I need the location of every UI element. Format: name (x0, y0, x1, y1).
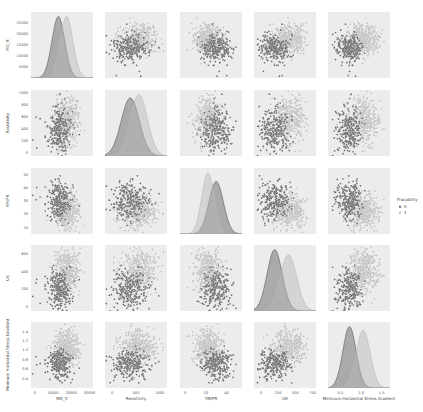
panel-2-1 (105, 168, 167, 239)
panel-4-3 (252, 322, 316, 388)
x-axis-label: YM/PR (204, 396, 218, 401)
panel-4-2 (180, 322, 242, 388)
y-tick-label: 200 (21, 139, 29, 143)
pairplot-figure: 500010000150002000025000MD_ft02004006008… (0, 0, 423, 412)
y-axis-label: MD_ft (5, 39, 10, 51)
y-tick-label: 40 (23, 186, 28, 190)
panel-1-1 (105, 90, 167, 156)
panel-3-1 (105, 245, 167, 318)
panel-2-2 (180, 168, 242, 234)
y-axis-label: Resistivity (5, 112, 10, 133)
x-tick-label: 0.5 (338, 391, 344, 395)
panel-0-0 (31, 12, 93, 78)
panel-1-3 (252, 88, 316, 162)
x-tick-label: 10000 (47, 391, 59, 395)
x-axis-label: Minimum Horizontal Stress Gradient (323, 396, 396, 401)
y-tick-label: 15000 (17, 43, 29, 47)
x-tick-label: 0 (33, 391, 36, 395)
panel-1-2 (180, 88, 242, 162)
y-axis-label: Minimum Horizontal Stress Gradient (5, 318, 10, 391)
panel-2-3 (252, 168, 316, 239)
panel-1-0 (31, 88, 93, 162)
y-axis-label: YM/PR (5, 195, 10, 209)
x-tick-label: 0 (260, 391, 263, 395)
x-axis-label: UK (282, 396, 288, 401)
x-tick-label: 1000 (155, 391, 165, 395)
y-tick-label: 400 (21, 127, 29, 131)
x-tick-label: 1.5 (379, 391, 385, 395)
legend-label-1: 1 (404, 210, 407, 215)
y-tick-label: 1.4 (22, 330, 28, 334)
panel-0-3 (252, 12, 316, 81)
y-tick-label: 0 (26, 151, 29, 155)
y-tick-label: 0 (26, 305, 29, 309)
legend-title: Fracability (397, 197, 418, 202)
y-tick-label: 1.0 (22, 348, 28, 352)
panel-4-4 (328, 322, 390, 388)
x-tick-label: 20000 (65, 391, 77, 395)
y-tick-label: 600 (21, 252, 29, 256)
y-tick-label: 1000 (19, 91, 29, 95)
panel-1-4 (328, 88, 390, 162)
y-tick-label: 5000 (19, 65, 29, 69)
y-axis-label: UK (5, 275, 10, 281)
x-tick-label: 20 (204, 391, 209, 395)
panel-0-1 (105, 12, 167, 81)
panel-3-2 (180, 245, 242, 318)
x-tick-label: 1.0 (358, 391, 364, 395)
y-tick-label: 0.8 (22, 358, 28, 362)
y-tick-label: 0.4 (22, 377, 28, 381)
y-tick-label: 30 (23, 199, 28, 203)
y-tick-label: 0.6 (22, 367, 28, 371)
panel-3-3 (254, 245, 316, 311)
legend: Fracability01 (397, 197, 418, 215)
x-tick-label: 500 (292, 391, 300, 395)
x-tick-label: 30000 (84, 391, 96, 395)
panel-4-0 (31, 322, 93, 388)
x-axis-label: Resistivity (126, 396, 147, 401)
x-tick-label: 0 (111, 391, 114, 395)
panel-0-4 (328, 12, 390, 81)
y-tick-label: 10 (23, 226, 28, 230)
panel-2-4 (328, 168, 390, 239)
legend-marker-0 (399, 206, 401, 208)
panel-2-0 (31, 168, 93, 239)
panel-4-1 (105, 322, 167, 388)
panel-3-4 (328, 245, 390, 318)
panel-0-2 (180, 12, 242, 81)
y-tick-label: 10000 (17, 54, 29, 58)
y-tick-label: 800 (21, 103, 29, 107)
y-tick-label: 400 (21, 270, 29, 274)
x-tick-label: 0 (184, 391, 187, 395)
legend-marker-1 (399, 212, 401, 214)
x-tick-label: 40 (224, 391, 229, 395)
legend-label-0: 0 (404, 204, 407, 209)
x-tick-label: 750 (309, 391, 317, 395)
panel-3-0 (31, 245, 93, 318)
y-tick-label: 200 (21, 287, 29, 291)
y-tick-label: 25000 (17, 21, 29, 25)
x-tick-label: 250 (275, 391, 283, 395)
y-tick-label: 50 (23, 173, 28, 177)
x-tick-label: 500 (133, 391, 141, 395)
y-tick-label: 1.2 (22, 339, 28, 343)
y-tick-label: 600 (21, 115, 29, 119)
y-tick-label: 20 (23, 212, 28, 216)
x-axis-label: MD_ft (56, 396, 68, 401)
y-tick-label: 20000 (17, 32, 29, 36)
